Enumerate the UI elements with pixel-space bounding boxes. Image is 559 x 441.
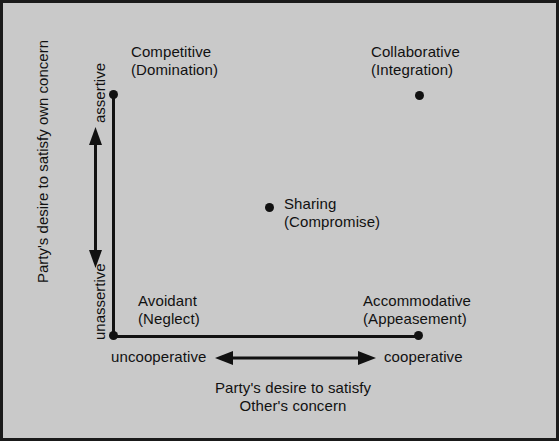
- point-collaborative: [415, 91, 424, 100]
- competitive-alias: (Domination): [131, 61, 218, 79]
- point-avoidant: [109, 331, 118, 340]
- label-accommodative: Accommodative (Appeasement): [363, 292, 471, 328]
- sharing-alias: (Compromise): [284, 213, 380, 231]
- avoidant-alias: (Neglect): [138, 310, 200, 328]
- axis-label-uncooperative: uncooperative: [111, 348, 207, 366]
- unassertive-text: unassertive: [91, 263, 108, 340]
- vertical-caption-line1: Party's desire to: [34, 176, 51, 283]
- sharing-name: Sharing: [284, 195, 380, 213]
- uncooperative-text: uncooperative: [111, 348, 207, 365]
- horizontal-caption-line2: Other's concern: [215, 397, 371, 415]
- horizontal-double-arrow: [213, 347, 378, 369]
- axis-label-assertive: assertive: [91, 63, 108, 123]
- collaborative-name: Collaborative: [371, 43, 460, 61]
- axis-label-cooperative: cooperative: [384, 348, 463, 366]
- label-collaborative: Collaborative (Integration): [371, 43, 460, 79]
- conflict-styles-diagram: assertive unassertive uncooperative coop…: [0, 0, 559, 441]
- vertical-caption-line2: satisfy own concern: [34, 40, 51, 172]
- cooperative-text: cooperative: [384, 348, 463, 365]
- axis-label-unassertive: unassertive: [91, 263, 108, 340]
- accommodative-name: Accommodative: [363, 292, 471, 310]
- label-sharing: Sharing (Compromise): [284, 195, 380, 231]
- assertive-text: assertive: [91, 63, 108, 123]
- horizontal-axis-caption: Party's desire to satisfy Other's concer…: [215, 379, 371, 415]
- label-avoidant: Avoidant (Neglect): [138, 292, 200, 328]
- label-competitive: Competitive (Domination): [131, 43, 218, 79]
- collaborative-alias: (Integration): [371, 61, 460, 79]
- competitive-name: Competitive: [131, 43, 218, 61]
- point-sharing: [265, 203, 274, 212]
- horizontal-caption-line1: Party's desire to satisfy: [215, 379, 371, 397]
- avoidant-name: Avoidant: [138, 292, 200, 310]
- accommodative-alias: (Appeasement): [363, 310, 471, 328]
- vertical-double-arrow: [81, 125, 111, 270]
- horizontal-axis-line: [113, 335, 420, 338]
- point-accommodative: [414, 331, 423, 340]
- vertical-axis-line: [112, 95, 115, 338]
- vertical-axis-caption: Party's desire to satisfy own concern: [33, 40, 53, 283]
- point-competitive: [109, 90, 118, 99]
